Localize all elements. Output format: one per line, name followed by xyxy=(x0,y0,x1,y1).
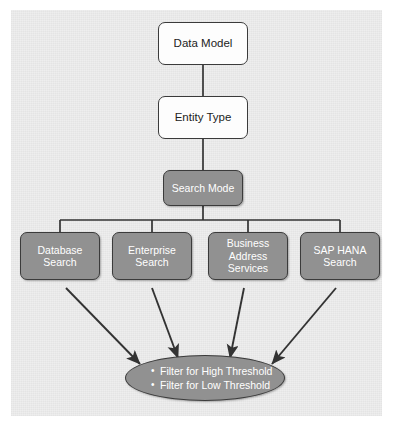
arrow-database-search-to-filters xyxy=(66,288,140,364)
arrow-enterprise-search-to-filters xyxy=(152,288,178,358)
node-enterprise-search-label: EnterpriseSearch xyxy=(128,244,176,269)
node-data-model-label: Data Model xyxy=(174,37,233,51)
node-search-mode[interactable]: Search Mode xyxy=(163,170,243,206)
arrow-sap-hana-search-to-filters xyxy=(272,288,336,364)
diagram-root: Data Model Entity Type Search Mode Datab… xyxy=(0,0,393,425)
node-data-model[interactable]: Data Model xyxy=(158,22,248,65)
list-item: Filter for Low Threshold xyxy=(160,378,272,392)
node-sap-hana-search[interactable]: SAP HANASearch xyxy=(300,232,380,280)
node-enterprise-search[interactable]: EnterpriseSearch xyxy=(112,232,192,280)
node-database-search[interactable]: DatabaseSearch xyxy=(20,232,100,280)
list-item: Filter for High Threshold xyxy=(160,364,272,378)
node-business-address-services-label: BusinessAddressServices xyxy=(227,237,270,274)
node-database-search-label: DatabaseSearch xyxy=(38,244,83,269)
arrow-business-address-to-filters xyxy=(230,288,244,358)
node-entity-type-label: Entity Type xyxy=(175,111,232,125)
node-sap-hana-search-label: SAP HANASearch xyxy=(314,244,367,269)
node-search-mode-label: Search Mode xyxy=(172,182,234,194)
filters-list: Filter for High Threshold Filter for Low… xyxy=(126,364,272,392)
node-business-address-services[interactable]: BusinessAddressServices xyxy=(208,232,288,280)
node-filters-ellipse[interactable]: Filter for High Threshold Filter for Low… xyxy=(125,355,285,401)
node-entity-type[interactable]: Entity Type xyxy=(158,96,248,139)
